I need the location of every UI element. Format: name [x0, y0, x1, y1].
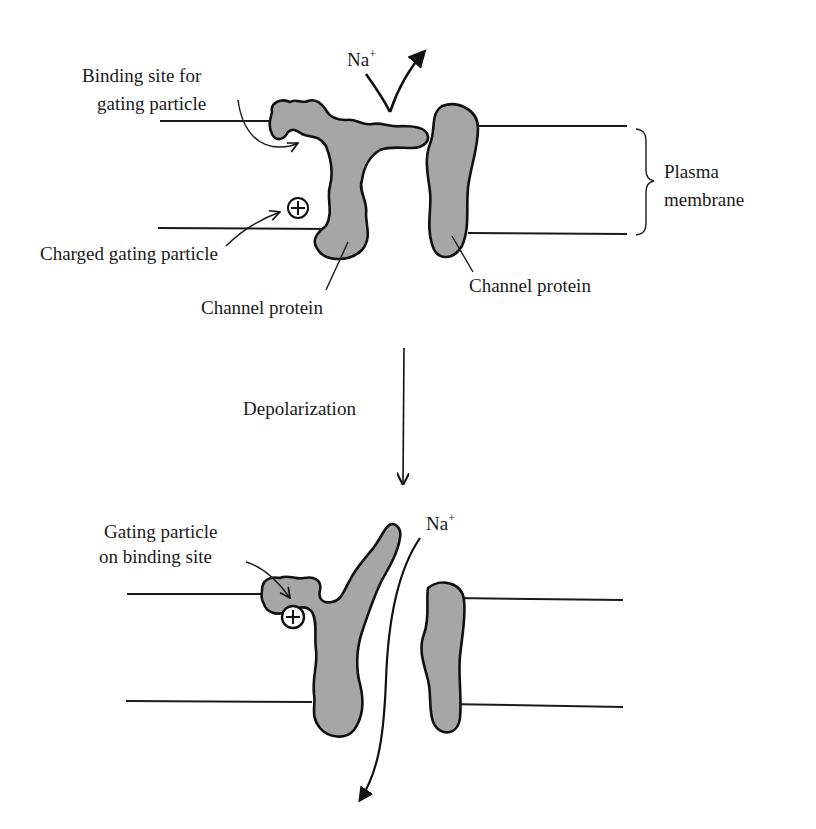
gating-particle-on-site-label-line1: Gating particle: [104, 521, 217, 542]
membrane-outer-line-right-open: [453, 598, 623, 600]
channel-protein-label-left: Channel protein: [201, 297, 323, 318]
membrane-inner-line-left: [158, 228, 330, 229]
na-ion-path-out-arrow: [390, 52, 424, 112]
na-ion-path-in: [366, 74, 390, 112]
membrane-inner-line-right-open: [444, 704, 623, 707]
membrane-inner-line-left-open: [126, 701, 312, 702]
plasma-membrane-label-line1: Plasma: [664, 161, 719, 182]
top-panel-closed-channel: Na+ Binding site for gating particle Cha…: [40, 47, 744, 318]
charged-gating-particle-label: Charged gating particle: [40, 243, 218, 264]
bottom-panel-open-channel: Gating particle on binding site Na+: [99, 511, 623, 800]
depolarization-arrow: [403, 348, 404, 484]
na-ion-label-top: Na+: [347, 47, 376, 70]
channel-protein-right-open: [421, 583, 464, 733]
gating-particle-bound: [282, 606, 304, 628]
depolarization-label: Depolarization: [243, 398, 356, 419]
channel-protein-label-right: Channel protein: [469, 275, 591, 296]
binding-site-label-line1: Binding site for: [82, 65, 202, 86]
na-ion-label-bottom: Na+: [426, 511, 455, 534]
channel-protein-left-closed: [270, 100, 428, 259]
diagram-canvas: Na+ Binding site for gating particle Cha…: [0, 0, 816, 829]
channel-protein-left-open: [262, 524, 401, 737]
gating-particle-on-site-label-line2: on binding site: [99, 546, 212, 567]
membrane-inner-line-right: [468, 233, 627, 234]
binding-site-label-line2: gating particle: [97, 93, 206, 114]
channel-protein-right-closed: [427, 104, 478, 257]
plasma-membrane-brace: [636, 129, 654, 235]
plasma-membrane-label-line2: membrane: [664, 189, 744, 210]
charged-gating-particle: [288, 198, 308, 218]
transition-depolarization: Depolarization: [243, 348, 404, 484]
